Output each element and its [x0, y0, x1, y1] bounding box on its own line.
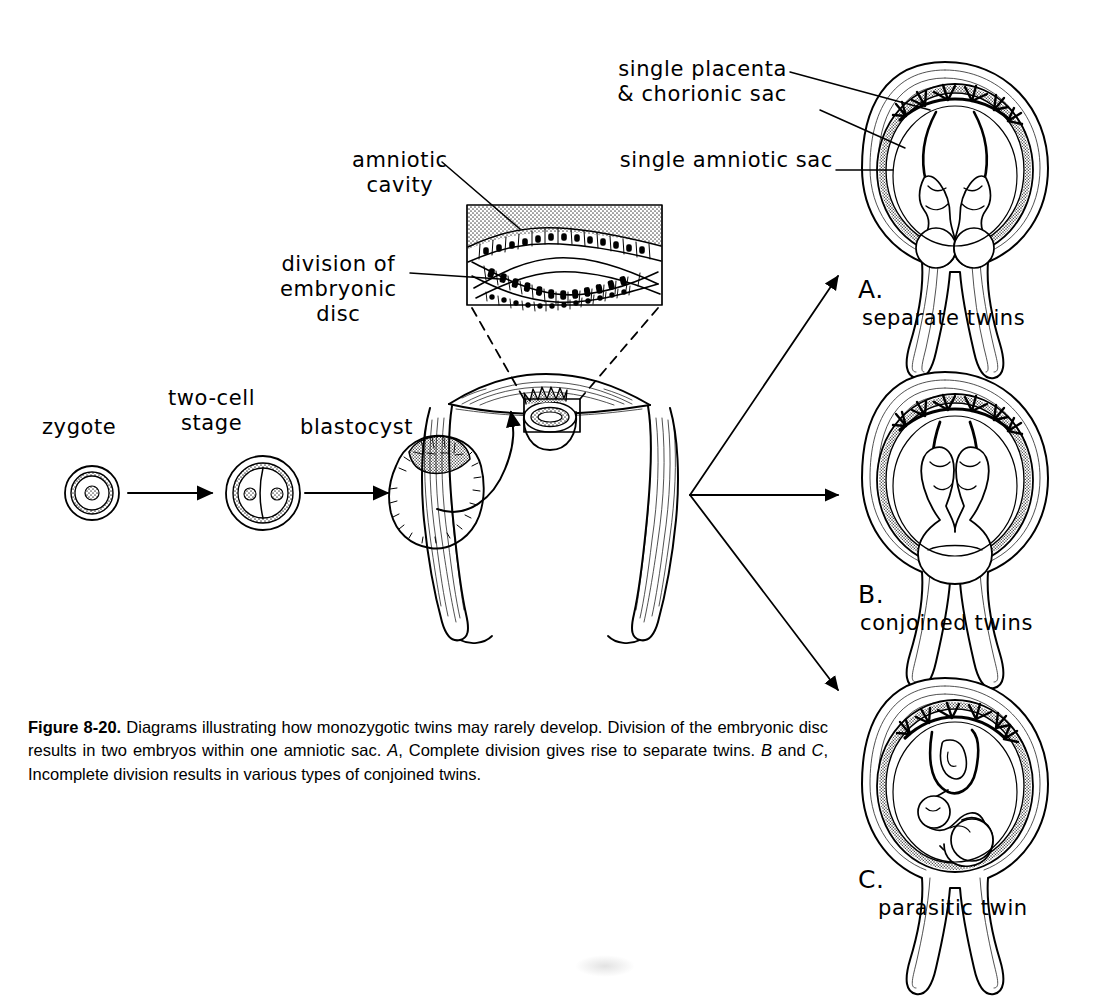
- label-blastocyst: blastocyst: [300, 415, 413, 440]
- page-scan-artifact: [575, 955, 635, 977]
- caption-ref-b: B: [761, 741, 772, 759]
- panel-a-uterus: [862, 62, 1048, 378]
- caption-join: and: [772, 741, 811, 759]
- figure-8-20: zygote two-cell stage blastocyst amnioti…: [0, 0, 1108, 1003]
- label-division-of-embryonic-disc: division of embryonic disc: [280, 252, 397, 326]
- label-zygote: zygote: [42, 415, 116, 440]
- label-amniotic-cavity: amniotic cavity: [352, 148, 448, 198]
- label-single-placenta-chorionic-sac: single placenta & chorionic sac: [617, 57, 787, 107]
- panel-c-letter: C.: [858, 865, 884, 894]
- branching-arrows: [690, 276, 838, 690]
- zygote-diagram: [65, 466, 119, 520]
- panel-b-uterus: [862, 372, 1048, 688]
- panel-b-caption: conjoined twins: [860, 611, 1033, 635]
- panel-b-letter: B.: [858, 580, 884, 609]
- label-two-cell-stage: two-cell stage: [168, 386, 255, 436]
- caption-a-text: , Complete division gives rise to separa…: [398, 741, 761, 759]
- panel-c-caption: parasitic twin: [878, 896, 1028, 920]
- label-single-amniotic-sac: single amniotic sac: [617, 148, 833, 173]
- panel-c-uterus: [862, 678, 1048, 994]
- figure-artwork: [0, 0, 1108, 1003]
- figure-number: Figure 8-20.: [28, 718, 121, 736]
- panel-a-caption: separate twins: [862, 306, 1025, 330]
- arrow-to-panel-c: [690, 495, 838, 690]
- caption-ref-c: C: [812, 741, 824, 759]
- figure-caption: Figure 8-20. Diagrams illustrating how m…: [28, 716, 828, 786]
- magnification-leaders: [472, 308, 658, 399]
- caption-ref-a: A: [387, 741, 398, 759]
- arrow-to-panel-a: [690, 276, 838, 495]
- embryonic-disc-inset: [467, 205, 662, 311]
- two-cell-diagram: [226, 456, 300, 530]
- panel-a-letter: A.: [858, 275, 884, 304]
